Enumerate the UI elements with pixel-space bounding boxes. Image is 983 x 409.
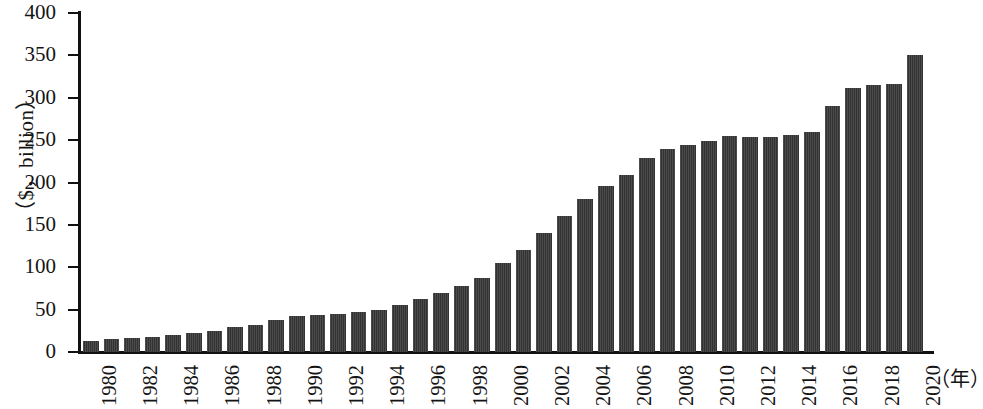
y-tick-label: 300 — [0, 87, 56, 108]
x-tick-label: 2008 — [676, 350, 697, 406]
bar — [845, 88, 861, 352]
bar — [351, 312, 367, 352]
x-tick-label: 2006 — [634, 350, 655, 406]
bar — [804, 132, 820, 352]
bar — [722, 136, 738, 352]
bar — [207, 331, 223, 352]
bar — [310, 315, 326, 352]
bar — [598, 186, 614, 352]
x-tick-label: 2018 — [882, 350, 903, 406]
x-tick-label: 1988 — [264, 350, 285, 406]
bar — [907, 55, 923, 352]
bar — [227, 327, 243, 352]
x-tick-label: 2004 — [593, 350, 614, 406]
bar — [371, 310, 387, 352]
x-tick-label: 1990 — [305, 350, 326, 406]
bar — [680, 145, 696, 352]
x-tick-label: 1992 — [346, 350, 367, 406]
bar — [536, 233, 552, 352]
bar — [495, 263, 511, 352]
y-tick-label: 50 — [0, 299, 56, 320]
bar — [124, 338, 140, 352]
bar — [330, 314, 346, 352]
bar — [742, 137, 758, 352]
x-tick-label: 2012 — [758, 350, 779, 406]
bar — [660, 149, 676, 352]
bar — [433, 293, 449, 352]
y-tick-label: 100 — [0, 256, 56, 277]
x-tick-label: 1986 — [222, 350, 243, 406]
bar — [866, 85, 882, 352]
x-axis-title: （年） — [930, 363, 983, 392]
bar — [83, 341, 99, 352]
bar — [557, 216, 573, 352]
bar — [577, 199, 593, 352]
x-tick-label: 1994 — [387, 350, 408, 406]
x-tick-label: 2014 — [799, 350, 820, 406]
bar — [516, 250, 532, 352]
y-tick-label: 350 — [0, 44, 56, 65]
bar — [783, 135, 799, 352]
bar — [248, 325, 264, 352]
x-tick-label: 1996 — [428, 350, 449, 406]
bar-chart: （$，billion） 050100150200250300350400 198… — [0, 0, 983, 409]
y-tick-label: 150 — [0, 214, 56, 235]
x-tick-label: 2010 — [717, 350, 738, 406]
y-tick-label: 200 — [0, 172, 56, 193]
bar — [413, 299, 429, 352]
bar — [289, 316, 305, 352]
bar — [825, 106, 841, 352]
bar — [454, 286, 470, 352]
bar — [639, 158, 655, 352]
x-axis-ticks: 1980198219841986198819901992199419961998… — [78, 354, 934, 409]
y-tick-label: 0 — [0, 341, 56, 362]
y-tick-label: 250 — [0, 129, 56, 150]
bar — [886, 84, 902, 352]
x-tick-label: 1982 — [140, 350, 161, 406]
y-axis-ticks: 050100150200250300350400 — [0, 0, 78, 409]
x-tick-label: 1998 — [470, 350, 491, 406]
x-tick-label: 2000 — [511, 350, 532, 406]
x-tick-label: 1980 — [99, 350, 120, 406]
bar — [268, 320, 284, 352]
y-tick-label: 400 — [0, 2, 56, 23]
x-tick-label: 2016 — [840, 350, 861, 406]
x-tick-label: 2002 — [552, 350, 573, 406]
bar — [165, 335, 181, 352]
bar — [474, 278, 490, 352]
bar — [392, 305, 408, 352]
bar — [701, 141, 717, 352]
bars-container — [78, 13, 934, 352]
x-tick-label: 1984 — [181, 350, 202, 406]
bar — [619, 175, 635, 352]
bar — [763, 137, 779, 352]
